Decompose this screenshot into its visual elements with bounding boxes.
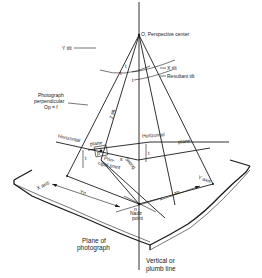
arrowhead	[115, 204, 120, 207]
y-tilt-label: Y tilt	[62, 45, 72, 51]
resultant-tilt-label: Resultant tilt	[167, 73, 195, 79]
yn-dimension-line	[52, 184, 120, 207]
p-label: p	[97, 150, 100, 156]
nadir-label-2: point	[132, 215, 143, 221]
ty-side-label: t	[85, 155, 86, 161]
tx-side-label: t	[148, 150, 149, 156]
ray-right-inner	[139, 35, 175, 205]
photo-perp-leader	[68, 103, 88, 105]
vertical-line-label-2: plumb line	[146, 265, 176, 273]
nadir-point-dot	[138, 203, 140, 205]
s-label: s	[120, 156, 123, 162]
ray-right	[139, 35, 213, 184]
y-axis-corner	[212, 183, 214, 185]
tx-label: t	[125, 63, 126, 69]
x-axis-corner	[66, 175, 68, 177]
photo-x-axis-edge	[67, 176, 139, 204]
tilted-photo-geometry-diagram	[0, 0, 262, 278]
arrowhead	[52, 184, 57, 187]
photo-sheet-back-corner	[230, 160, 250, 166]
ty-label: t	[120, 70, 121, 76]
perspective-center-point	[138, 34, 140, 36]
vertical-line-label-1: Vertical or	[146, 257, 175, 265]
plane-of-photo-label-2: photograph	[77, 244, 110, 252]
t-label: t	[132, 77, 133, 83]
perspective-center-label: O, Perspective center	[141, 31, 189, 37]
principal-point	[100, 150, 103, 153]
x-tilt-label: X tilt	[167, 65, 177, 71]
photo-perp-label-3: Op = f	[44, 104, 58, 110]
